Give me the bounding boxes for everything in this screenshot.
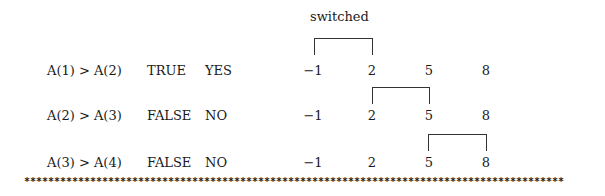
value-row-2-a4: 8 [471,108,501,124]
comparison-row-3: A(3) > A(4) [47,155,122,171]
result-row-1: TRUE [147,63,186,79]
swap-bracket-row-2 [372,87,430,104]
value-row-2-a3: 5 [414,108,444,124]
comparison-row-1: A(1) > A(2) [47,63,122,79]
value-row-3-a2: 2 [357,155,387,171]
swap-row-2: NO [205,108,227,124]
value-row-3-a3: 5 [414,155,444,171]
value-row-2-a2: 2 [357,108,387,124]
comparison-row-2: A(2) > A(3) [47,108,122,124]
switched-label: switched [310,9,369,25]
value-row-3-a4: 8 [471,155,501,171]
swap-row-1: YES [205,63,232,79]
swap-bracket-row-1 [314,38,373,55]
value-row-1-a1: −1 [298,63,328,79]
swap-bracket-row-3 [428,134,487,151]
result-row-2: FALSE [147,108,191,124]
value-row-1-a2: 2 [357,63,387,79]
result-row-3: FALSE [147,155,191,171]
asterisk-separator: ****************************************… [24,176,564,188]
value-row-1-a4: 8 [471,63,501,79]
value-row-2-a1: −1 [298,108,328,124]
value-row-3-a1: −1 [298,155,328,171]
value-row-1-a3: 5 [414,63,444,79]
swap-row-3: NO [205,155,227,171]
